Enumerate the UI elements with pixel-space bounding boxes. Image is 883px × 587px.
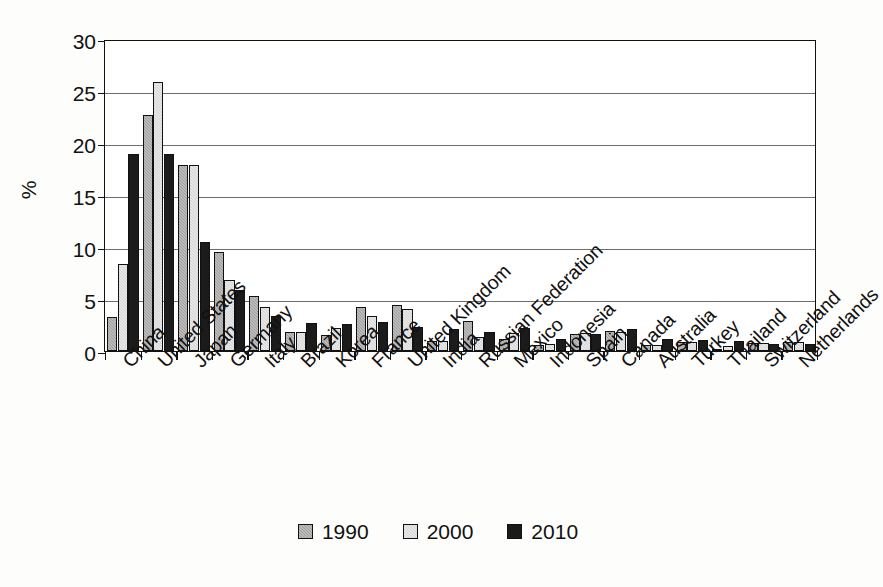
y-axis-title: % xyxy=(17,175,41,205)
y-axis-tick-label: 10 xyxy=(73,239,96,260)
y-axis-tick-label: 20 xyxy=(73,135,96,156)
bar-group xyxy=(641,41,673,351)
y-axis-tick-label: 15 xyxy=(73,187,96,208)
x-axis-tick-mark xyxy=(105,351,106,360)
y-axis-tick-mark xyxy=(98,301,105,302)
y-axis-tick-mark xyxy=(98,197,105,198)
y-axis-tick-mark xyxy=(98,249,105,250)
bar xyxy=(118,264,128,351)
bar xyxy=(128,154,138,351)
bar-group xyxy=(712,41,744,351)
legend-swatch xyxy=(298,524,313,539)
bar-group xyxy=(285,41,317,351)
legend-swatch xyxy=(507,524,522,539)
y-axis-tick-label: 25 xyxy=(73,83,96,104)
y-axis-tick-mark xyxy=(98,41,105,42)
bar-group xyxy=(392,41,424,351)
y-axis-tick-label: 30 xyxy=(73,31,96,52)
bar-group xyxy=(143,41,175,351)
bar xyxy=(143,115,153,351)
y-axis-tick-mark xyxy=(98,93,105,94)
y-axis-tick-mark xyxy=(98,145,105,146)
y-axis-tick-label: 5 xyxy=(84,291,96,312)
y-axis-tick-mark xyxy=(98,353,105,354)
bar xyxy=(164,154,174,351)
legend-label: 1990 xyxy=(322,521,369,542)
legend-label: 2010 xyxy=(531,521,578,542)
bar xyxy=(107,317,117,351)
bar-group xyxy=(107,41,139,351)
bar xyxy=(153,82,163,351)
bar-group xyxy=(321,41,353,351)
bar-group xyxy=(356,41,388,351)
chart-legend: 199020002010 xyxy=(0,521,876,542)
legend-label: 2000 xyxy=(427,521,474,542)
legend-swatch xyxy=(403,524,418,539)
y-axis-tick-label: 0 xyxy=(84,343,96,364)
legend-item[interactable]: 2000 xyxy=(403,521,474,542)
legend-item[interactable]: 2010 xyxy=(507,521,578,542)
legend-item[interactable]: 1990 xyxy=(298,521,369,542)
